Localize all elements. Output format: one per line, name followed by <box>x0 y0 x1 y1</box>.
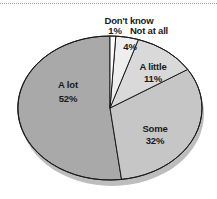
label-a-little-name: A little <box>139 61 166 72</box>
label-a-little-value: 11% <box>144 73 163 84</box>
label-not-at-all-name: Not at all <box>130 25 168 36</box>
label-a-lot-value: 52% <box>59 93 78 104</box>
label-dont-know-value: 1% <box>108 25 122 36</box>
slice-a-lot <box>18 36 122 180</box>
pie-chart: Don't know 1% Not at all 4% A little 11%… <box>0 0 217 199</box>
label-some-name: Some <box>142 123 167 134</box>
label-not-at-all-value: 4% <box>123 41 137 52</box>
label-some-value: 32% <box>146 135 165 146</box>
label-a-lot-name: A lot <box>58 79 79 90</box>
